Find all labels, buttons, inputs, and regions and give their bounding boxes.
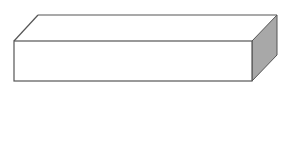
box-front-face — [14, 41, 252, 81]
box-right-side — [252, 15, 277, 81]
ball-box-diagram — [0, 0, 287, 164]
